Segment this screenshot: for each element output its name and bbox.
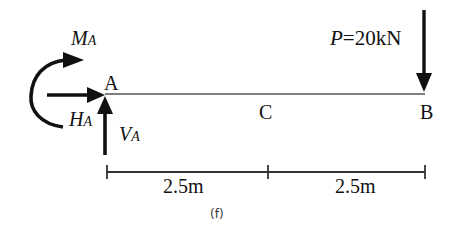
horizontal-subscript: A	[82, 114, 92, 129]
dimension-label-cb: 2.5m	[335, 175, 376, 197]
horizontal-symbol: H	[68, 108, 85, 130]
vertical-reaction-arrow-icon	[97, 96, 113, 155]
moment-subscript: A	[87, 33, 97, 48]
moment-symbol: M	[70, 27, 89, 49]
horizontal-reaction-arrow-icon	[47, 87, 105, 103]
dimension-line	[107, 165, 425, 179]
point-label-b: B	[420, 101, 433, 123]
moment-reaction-label: MA	[70, 27, 97, 49]
beam-diagram: A C B MA HA VA P=20kN 2.5m 2.5m (f)	[0, 0, 457, 251]
point-label-c: C	[259, 101, 272, 123]
load-symbol: P	[329, 26, 343, 50]
point-label-a: A	[104, 72, 119, 94]
horizontal-reaction-label: HA	[68, 108, 92, 130]
figure-caption: (f)	[210, 207, 224, 221]
vertical-reaction-label: VA	[119, 123, 140, 145]
load-equals: =	[343, 26, 355, 50]
dimension-label-ac: 2.5m	[163, 175, 204, 197]
point-load-arrow-icon	[416, 10, 432, 92]
load-value: 20kN	[355, 26, 402, 50]
point-load-label: P=20kN	[329, 26, 401, 50]
vertical-subscript: A	[130, 129, 140, 144]
